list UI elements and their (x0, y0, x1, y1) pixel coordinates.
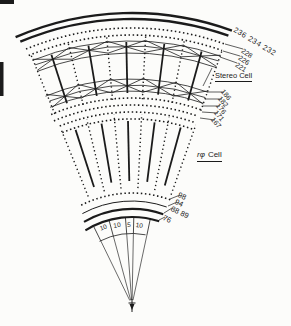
stereo-cell-region (31, 35, 222, 114)
outer-wall-arcs (16, 13, 232, 42)
apex-marker (129, 299, 136, 312)
converging-wires (101, 234, 147, 301)
stereo-cell-label: Stereo Cell (215, 72, 252, 82)
rphi-symbol: rφ (197, 151, 205, 159)
scan-artifact (0, 0, 14, 96)
rphi-cell-region (61, 114, 196, 196)
cell-width-value: 10 (113, 222, 121, 230)
cell-width-value: 10 (135, 222, 143, 229)
drift-chamber-cell-diagram: 236 234 232 228 226 221 Stereo Cell 186 … (0, 0, 291, 326)
rphi-word: Cell (208, 151, 222, 159)
rphi-cell-label: rφ Cell (197, 151, 222, 162)
cell-width-value: 5 (127, 222, 131, 229)
inner-wall-arcs (82, 201, 166, 241)
